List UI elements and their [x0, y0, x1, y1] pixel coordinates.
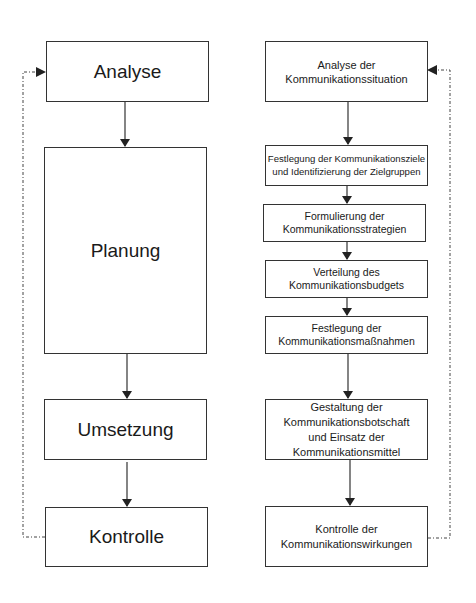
step-line: Kommunikationsbudgets	[289, 279, 404, 292]
step-gestaltung-botschaft: Gestaltung der Kommunikationsbotschaft u…	[265, 399, 428, 460]
step-line: Kommunikationsmaßnahmen	[278, 335, 415, 348]
step-line: Kommunikationsstrategien	[283, 223, 407, 236]
step-line: und Identifizierung der Zielgruppen	[268, 166, 425, 179]
step-line: Festlegung der	[278, 322, 415, 335]
right-feedback-arrowhead	[427, 65, 437, 75]
step-line: Kontrolle der	[281, 522, 412, 537]
step-formulierung-strategien: Formulierung der Kommunikationsstrategie…	[263, 204, 426, 242]
step-umsetzung: Umsetzung	[44, 399, 207, 460]
step-planung: Planung	[44, 147, 207, 354]
step-verteilung-budgets: Verteilung des Kommunikationsbudgets	[265, 260, 428, 298]
step-festlegung-ziele: Festlegung der Kommunikationsziele und I…	[265, 145, 428, 186]
left-feedback-arrowhead	[36, 67, 46, 77]
step-line: Formulierung der	[283, 210, 407, 223]
step-label: Planung	[91, 240, 161, 262]
step-kontrolle-wirkungen: Kontrolle der Kommunikationswirkungen	[265, 506, 428, 567]
step-line: Gestaltung der	[284, 400, 410, 415]
step-festlegung-massnahmen: Festlegung der Kommunikationsmaßnahmen	[265, 316, 428, 354]
step-line: Festlegung der Kommunikationsziele	[268, 153, 425, 166]
step-label: Analyse	[94, 61, 162, 83]
step-line: Kommunikationssituation	[285, 72, 407, 86]
step-line: Analyse der	[285, 58, 407, 72]
step-label: Umsetzung	[77, 419, 173, 441]
step-label: Kontrolle	[89, 526, 164, 548]
left-feedback-loop	[23, 72, 45, 537]
step-kontrolle: Kontrolle	[45, 507, 208, 567]
right-feedback-loop	[428, 70, 450, 538]
step-line: Verteilung des	[289, 266, 404, 279]
step-line: Kommunikationsbotschaft	[284, 415, 410, 430]
step-line: und Einsatz der	[284, 430, 410, 445]
step-analyse-kommunikationssituation: Analyse der Kommunikationssituation	[265, 41, 428, 102]
step-analyse: Analyse	[46, 41, 209, 102]
step-line: Kommunikationsmittel	[284, 445, 410, 460]
step-line: Kommunikationswirkungen	[281, 537, 412, 552]
